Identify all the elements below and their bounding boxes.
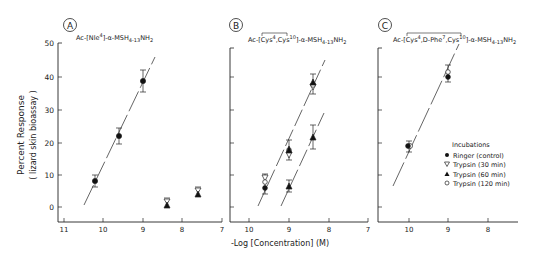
svg-text:30: 30 (44, 106, 54, 115)
x-tick-labels: 10 9 8 7 (245, 226, 371, 234)
svg-text:0: 0 (49, 203, 54, 212)
svg-text:9: 9 (446, 226, 450, 234)
svg-text:50: 50 (44, 39, 54, 48)
panel-b-title: Ac-[Cys4,Cys10]-α-MSH4-13NH2 (248, 34, 346, 45)
svg-text:Percent Response: Percent Response (16, 95, 26, 175)
filled-circle-icon (445, 153, 449, 157)
svg-text:8: 8 (486, 226, 490, 234)
svg-text:7: 7 (366, 226, 370, 234)
svg-text:Trypsin (120 min): Trypsin (120 min) (452, 180, 510, 188)
svg-text:10: 10 (99, 226, 108, 234)
panel-c-title: Ac-[Cys4,D-Phe7,Cys10]-α-MSH4-13NH2 (393, 34, 516, 45)
figure: Percent Response ( lizard skin bioassay … (0, 0, 543, 266)
x-axis-label: -Log [Concentration] (M) (231, 239, 329, 248)
open-triangle-down-icon (445, 162, 450, 167)
svg-text:10: 10 (405, 226, 414, 234)
svg-text:8: 8 (327, 226, 331, 234)
svg-text:Trypsin (60 min): Trypsin (60 min) (452, 171, 506, 179)
panel-a-title: Ac-[Nle4]-α-MSH4-13NH2 (76, 32, 153, 43)
svg-text:7: 7 (220, 226, 224, 234)
svg-text:10: 10 (245, 226, 254, 234)
svg-text:9: 9 (287, 226, 291, 234)
svg-text:A: A (67, 21, 74, 31)
y-tick-labels: 50 40 30 20 10 0 (44, 39, 54, 212)
svg-text:9: 9 (141, 226, 145, 234)
svg-text:B: B (233, 21, 239, 31)
svg-text:Ringer (control): Ringer (control) (453, 152, 504, 160)
svg-text:11: 11 (60, 226, 69, 234)
x-tick-labels: 10 9 8 (405, 226, 491, 234)
panel-b: B Ac-[Cys4,Cys10]-α-MSH4-13NH2 10 9 8 7 (230, 19, 371, 235)
legend: Incubations Ringer (control) Trypsin (30… (445, 141, 510, 188)
y-axis-label: Percent Response ( lizard skin bioassay … (16, 90, 38, 179)
svg-text:40: 40 (44, 73, 54, 82)
filled-triangle-up-icon (445, 172, 450, 177)
x-tick-labels: 11 10 9 8 7 (60, 226, 225, 234)
svg-text:( lizard skin bioassay ): ( lizard skin bioassay ) (29, 90, 38, 179)
open-circle-icon (445, 181, 449, 185)
svg-text:C: C (382, 21, 388, 31)
panel-c: C Ac-[Cys4,D-Phe7,Cys10]-α-MSH4-13NH2 10… (378, 19, 518, 235)
svg-text:Trypsin (30 min): Trypsin (30 min) (452, 161, 506, 169)
panel-a: A Ac-[Nle4]-α-MSH4-13NH2 50 40 30 20 10 … (44, 19, 224, 235)
svg-text:20: 20 (44, 139, 54, 148)
svg-text:8: 8 (180, 226, 184, 234)
svg-text:Incubations: Incubations (452, 141, 490, 149)
svg-text:10: 10 (44, 171, 54, 180)
